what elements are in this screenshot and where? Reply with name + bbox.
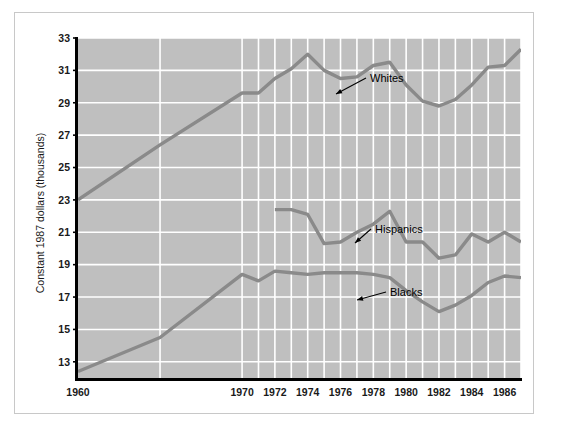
- y-axis-title: Constant 1987 dollars (thousands): [34, 133, 46, 294]
- x-tick-label: 1972: [263, 386, 287, 398]
- y-tick-label: 15: [58, 323, 70, 335]
- x-tick-label: 1978: [362, 386, 386, 398]
- y-tick-label: 33: [58, 32, 70, 44]
- y-tick-label: 29: [58, 97, 70, 109]
- x-tick-label: 1986: [493, 386, 517, 398]
- y-tick-label: 21: [58, 226, 70, 238]
- line-chart: 1315171921232527293133196019701972197419…: [0, 0, 563, 427]
- y-tick-label: 17: [58, 291, 70, 303]
- annotation-label-blacks: Blacks: [390, 286, 423, 298]
- x-tick-label: 1984: [460, 386, 484, 398]
- y-tick-label: 19: [58, 258, 70, 270]
- y-tick-label: 27: [58, 129, 70, 141]
- annotation-label-hispanics: Hispanics: [375, 223, 423, 235]
- y-tick-label: 23: [58, 194, 70, 206]
- x-tick-label: 1980: [394, 386, 418, 398]
- y-tick-label: 25: [58, 161, 70, 173]
- x-tick-label: 1976: [329, 386, 353, 398]
- y-tick-label: 13: [58, 356, 70, 368]
- x-tick-label: 1982: [427, 386, 451, 398]
- x-tick-label: 1960: [66, 386, 90, 398]
- y-tick-label: 31: [58, 64, 70, 76]
- x-tick-label: 1974: [296, 386, 320, 398]
- x-tick-label: 1970: [230, 386, 254, 398]
- chart-figure: 1315171921232527293133196019701972197419…: [0, 0, 563, 427]
- annotation-label-whites: Whites: [370, 72, 404, 84]
- plot-background: [78, 38, 521, 378]
